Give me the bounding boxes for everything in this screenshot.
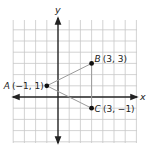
point-c — [89, 106, 94, 111]
point-label-c: C(3, −1) — [95, 104, 135, 114]
coordinate-plane-figure: x y A(−1, 1)B(3, 3)C(3, −1) — [0, 0, 150, 153]
axes: x y — [13, 4, 146, 143]
coordinate-plane: x y A(−1, 1)B(3, 3)C(3, −1) — [0, 0, 150, 153]
point-name: B — [95, 54, 101, 64]
point-label-a: A(−1, 1) — [3, 81, 44, 91]
point-coordinates: (3, 3) — [103, 54, 127, 64]
point-name: A — [3, 81, 10, 91]
plotted-points: A(−1, 1)B(3, 3)C(3, −1) — [3, 54, 135, 114]
point-name: C — [95, 104, 102, 114]
point-coordinates: (3, −1) — [103, 104, 135, 114]
x-axis-label: x — [139, 91, 146, 102]
point-coordinates: (−1, 1) — [12, 81, 44, 91]
y-axis-label: y — [54, 4, 61, 15]
point-label-b: B(3, 3) — [95, 54, 127, 64]
point-a — [44, 83, 49, 88]
point-b — [89, 61, 94, 66]
